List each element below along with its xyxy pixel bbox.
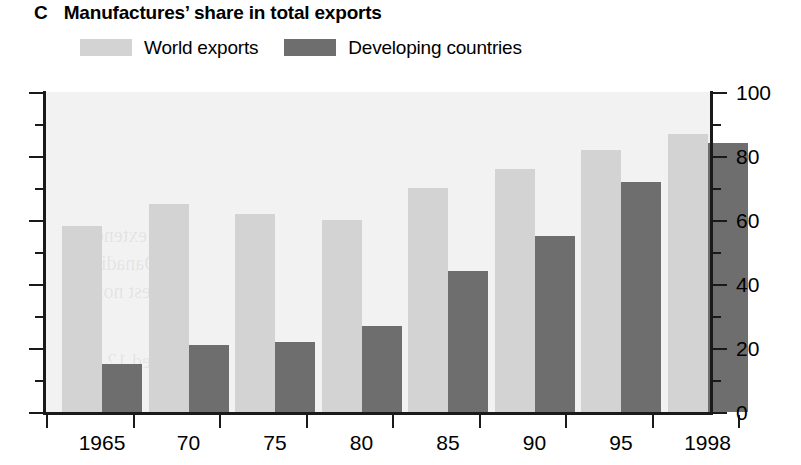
bar-developing-countries-90	[535, 236, 575, 412]
x-axis-label: 95	[609, 432, 632, 453]
y-axis-tick-major	[29, 92, 43, 94]
x-axis-label: 1965	[79, 432, 126, 453]
x-axis-tick	[392, 415, 394, 428]
y-axis-tick-minor	[35, 380, 43, 382]
bar-world-exports-1998	[668, 134, 708, 412]
x-axis-label: 75	[263, 432, 286, 453]
y-axis-tick-major	[29, 220, 43, 222]
y-axis-tick-minor	[713, 252, 721, 254]
y-axis-tick-major	[713, 284, 727, 286]
x-axis-tick	[479, 415, 481, 428]
y-axis-label: 40	[736, 274, 759, 295]
bar-developing-countries-80	[362, 326, 402, 412]
y-axis-tick-minor	[35, 188, 43, 190]
y-axis-tick-major	[713, 156, 727, 158]
bar-world-exports-75	[235, 214, 275, 412]
x-axis-tick	[133, 415, 135, 428]
x-axis-label: 85	[436, 432, 459, 453]
chart-plot-area: extendsOanadianhighest noreed 12 pni 020…	[46, 92, 710, 412]
legend-item: Developing countries	[284, 38, 521, 57]
legend-label: World exports	[144, 38, 258, 57]
chart-legend: World exportsDeveloping countries	[80, 38, 522, 57]
bar-developing-countries-95	[621, 182, 661, 412]
x-axis-label: 70	[177, 432, 200, 453]
y-axis-tick-major	[29, 348, 43, 350]
x-axis-tick	[565, 415, 567, 428]
chart-header: C Manufactures’ share in total exports	[34, 2, 382, 24]
y-axis-left	[43, 91, 46, 413]
y-axis-tick-minor	[713, 124, 721, 126]
bar-developing-countries-1965	[102, 364, 142, 412]
y-axis-tick-major	[713, 412, 727, 414]
page-title: Manufactures’ share in total exports	[64, 2, 382, 24]
bar-world-exports-70	[149, 204, 189, 412]
y-axis-label: 20	[736, 338, 759, 359]
x-axis-tick	[219, 415, 221, 428]
x-axis-label: 90	[523, 432, 546, 453]
x-axis-label: 80	[350, 432, 373, 453]
y-axis-label: 80	[736, 146, 759, 167]
y-axis-tick-major	[29, 156, 43, 158]
bar-world-exports-90	[495, 169, 535, 412]
y-axis-tick-minor	[35, 124, 43, 126]
bar-world-exports-85	[408, 188, 448, 412]
bar-world-exports-95	[581, 150, 621, 412]
bar-developing-countries-75	[275, 342, 315, 412]
y-axis-tick-major	[29, 412, 43, 414]
y-axis-tick-major	[29, 284, 43, 286]
y-axis-label: 100	[736, 82, 771, 103]
legend-swatch-world-exports	[80, 39, 132, 56]
bar-developing-countries-70	[189, 345, 229, 412]
y-axis-tick-minor	[35, 252, 43, 254]
y-axis-tick-minor	[35, 316, 43, 318]
y-axis-tick-major	[713, 92, 727, 94]
legend-label: Developing countries	[348, 38, 521, 57]
bar-world-exports-80	[322, 220, 362, 412]
bar-world-exports-1965	[62, 226, 102, 412]
legend-swatch-developing-countries	[284, 39, 336, 56]
x-axis-tick	[306, 415, 308, 428]
y-axis-label: 60	[736, 210, 759, 231]
x-axis	[43, 412, 713, 415]
y-axis-tick-major	[713, 220, 727, 222]
bar-developing-countries-85	[448, 271, 488, 412]
x-axis-tick	[46, 415, 48, 428]
x-axis-tick	[652, 415, 654, 428]
y-axis-label: 0	[736, 402, 748, 423]
panel-letter: C	[34, 2, 48, 24]
y-axis-tick-minor	[713, 188, 721, 190]
y-axis-tick-major	[713, 348, 727, 350]
y-axis-tick-minor	[713, 316, 721, 318]
x-axis-label: 1998	[684, 432, 731, 453]
y-axis-tick-minor	[713, 380, 721, 382]
legend-item: World exports	[80, 38, 258, 57]
